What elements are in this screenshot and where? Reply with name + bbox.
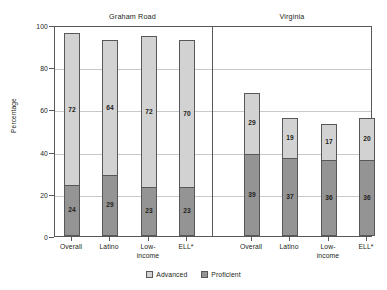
segment-advanced-value: 29 xyxy=(248,120,256,127)
segment-advanced[interactable]: 64 xyxy=(102,40,118,175)
segment-proficient[interactable]: 39 xyxy=(244,154,260,236)
y-tick-label-100: 100 xyxy=(18,23,48,30)
bar-virginia-latino[interactable]: 1937 xyxy=(282,118,298,236)
x-tick-mark xyxy=(109,237,110,241)
x-label-ell-: ELL* xyxy=(163,243,209,252)
legend-item-proficient[interactable]: Proficient xyxy=(201,271,240,278)
x-label-ell-: ELL* xyxy=(343,243,387,252)
bar-graham-road-overall[interactable]: 7224 xyxy=(64,33,80,236)
x-tick-mark xyxy=(71,237,72,241)
legend-label: Proficient xyxy=(211,271,240,278)
segment-proficient[interactable]: 36 xyxy=(359,160,375,236)
segment-proficient-value: 36 xyxy=(363,195,371,202)
x-tick-mark xyxy=(148,237,149,241)
segment-proficient-value: 23 xyxy=(183,208,191,215)
segment-advanced-value: 72 xyxy=(145,109,153,116)
bar-graham-road-ell-[interactable]: 7023 xyxy=(179,40,195,236)
group-divider xyxy=(212,27,213,236)
y-tick-label-40: 40 xyxy=(18,149,48,156)
segment-advanced-value: 70 xyxy=(183,111,191,118)
x-tick-mark xyxy=(289,237,290,241)
segment-proficient-value: 37 xyxy=(286,194,294,201)
x-tick-mark xyxy=(251,237,252,241)
segment-advanced[interactable]: 20 xyxy=(359,118,375,160)
segment-advanced-value: 17 xyxy=(325,139,333,146)
segment-proficient[interactable]: 29 xyxy=(102,175,118,236)
segment-advanced-value: 19 xyxy=(286,135,294,142)
plot-area: 72246429722370232939193717362036 xyxy=(54,26,372,237)
x-tick-mark xyxy=(186,237,187,241)
bar-graham-road-low-income[interactable]: 7223 xyxy=(141,36,157,236)
segment-advanced-value: 20 xyxy=(363,136,371,143)
segment-advanced-value: 72 xyxy=(68,107,76,114)
chart-legend: AdvancedProficient xyxy=(0,271,387,278)
legend-item-advanced[interactable]: Advanced xyxy=(146,271,187,278)
segment-advanced[interactable]: 72 xyxy=(141,36,157,188)
segment-advanced[interactable]: 17 xyxy=(321,124,337,160)
bar-virginia-ell-[interactable]: 2036 xyxy=(359,118,375,236)
segment-proficient[interactable]: 23 xyxy=(179,187,195,236)
bar-virginia-overall[interactable]: 2939 xyxy=(244,93,260,236)
segment-advanced[interactable]: 70 xyxy=(179,40,195,188)
group-header-graham-road: Graham Road xyxy=(54,12,211,21)
segment-proficient[interactable]: 36 xyxy=(321,160,337,236)
segment-proficient[interactable]: 37 xyxy=(282,158,298,236)
x-label-line2: income xyxy=(317,252,340,259)
segment-advanced[interactable]: 72 xyxy=(64,33,80,185)
segment-proficient-value: 39 xyxy=(248,192,256,199)
segment-proficient[interactable]: 24 xyxy=(64,185,80,236)
bar-graham-road-latino[interactable]: 6429 xyxy=(102,40,118,236)
legend-label: Advanced xyxy=(156,271,187,278)
stacked-bar-chart: Student Achievement Graham Road Virginia… xyxy=(0,0,387,290)
segment-proficient-value: 36 xyxy=(325,195,333,202)
segment-advanced-value: 64 xyxy=(106,105,114,112)
y-tick-label-0: 0 xyxy=(18,234,48,241)
y-axis-title: Percentage xyxy=(10,86,17,146)
legend-swatch-icon-advanced xyxy=(146,271,153,278)
y-tick-label-80: 80 xyxy=(18,65,48,72)
y-tick-mark-0 xyxy=(49,237,54,238)
y-tick-label-60: 60 xyxy=(18,107,48,114)
segment-advanced[interactable]: 19 xyxy=(282,118,298,158)
segment-proficient-value: 29 xyxy=(106,202,114,209)
x-label-line2: income xyxy=(137,252,160,259)
x-tick-mark xyxy=(328,237,329,241)
chart-title-text: Student Achievement xyxy=(156,0,231,1)
segment-proficient[interactable]: 23 xyxy=(141,187,157,236)
segment-proficient-value: 23 xyxy=(145,208,153,215)
segment-advanced[interactable]: 29 xyxy=(244,93,260,154)
legend-swatch-icon-proficient xyxy=(201,271,208,278)
bar-virginia-low-income[interactable]: 1736 xyxy=(321,124,337,236)
chart-title-cropped: Student Achievement xyxy=(0,0,387,5)
x-tick-mark xyxy=(366,237,367,241)
group-header-virginia: Virginia xyxy=(212,12,372,21)
segment-proficient-value: 24 xyxy=(68,207,76,214)
y-tick-label-20: 20 xyxy=(18,191,48,198)
